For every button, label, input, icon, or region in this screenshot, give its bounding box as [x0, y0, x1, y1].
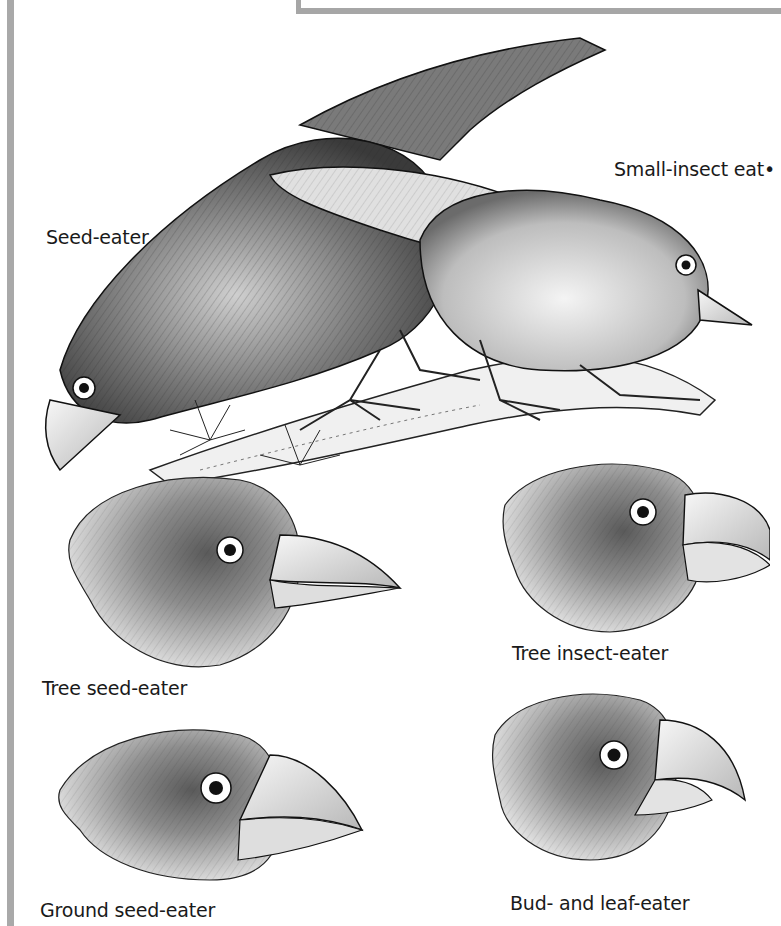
label-tree-insect-eater: Tree insect-eater: [512, 642, 668, 664]
label-bud-leaf-eater: Bud- and leaf-eater: [510, 892, 689, 914]
label-small-insect-eater: Small-insect eat•: [614, 158, 775, 180]
ground-seed-eater-head: [59, 730, 362, 880]
bud-leaf-eater-head: [493, 694, 745, 860]
label-ground-seed-eater: Ground seed-eater: [40, 899, 215, 921]
tree-insect-eater-head: [503, 464, 770, 632]
label-tree-seed-eater: Tree seed-eater: [42, 677, 187, 699]
tree-seed-eater-head: [69, 478, 400, 667]
label-seed-eater: Seed-eater: [46, 226, 149, 248]
